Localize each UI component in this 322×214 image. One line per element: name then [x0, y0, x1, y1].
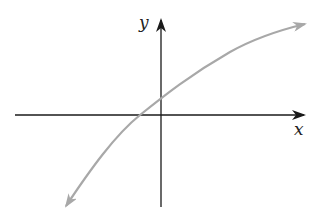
x-axis-label: x: [294, 121, 304, 138]
graph-canvas: y x: [0, 0, 322, 214]
graph-svg: [0, 0, 322, 214]
y-axis-label: y: [139, 14, 149, 31]
